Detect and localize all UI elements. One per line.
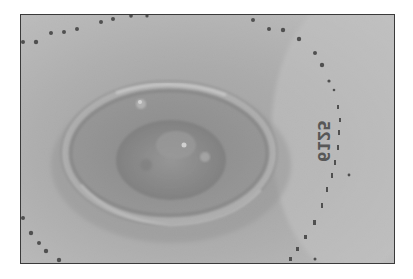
clinical-photo: 6125	[20, 14, 395, 264]
